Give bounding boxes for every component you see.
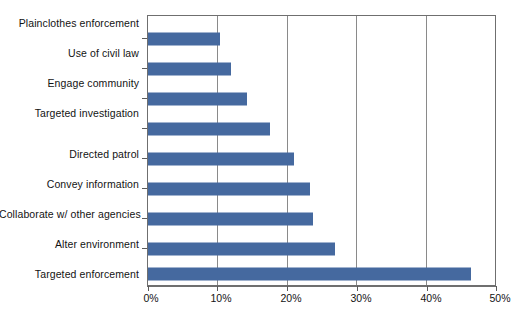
bar-alter-environment bbox=[148, 243, 335, 256]
x-axis-tick bbox=[357, 286, 358, 291]
bar-targeted-enforcement bbox=[148, 268, 471, 281]
category-label: Use of civil law bbox=[0, 48, 139, 59]
category-label: Alter environment bbox=[0, 239, 139, 250]
bar-convey-information bbox=[148, 183, 310, 196]
bar-chart: Plainclothes enforcement Use of civil la… bbox=[0, 0, 519, 315]
category-label: Convey information bbox=[0, 179, 139, 190]
x-axis-tick bbox=[427, 286, 428, 291]
x-axis-tick-label: 20% bbox=[280, 293, 301, 304]
category-label: Collaborate w/ other agencies bbox=[0, 209, 139, 220]
x-axis-tick-label: 40% bbox=[420, 293, 441, 304]
category-label: Plainclothes enforcement bbox=[0, 18, 139, 29]
x-axis-tick-label: 50% bbox=[489, 293, 510, 304]
category-label: Targeted investigation bbox=[0, 108, 139, 119]
category-label: Engage community bbox=[0, 78, 139, 89]
bar-use-of-civil-law bbox=[148, 63, 231, 76]
gridline-30 bbox=[356, 16, 357, 285]
x-axis-tick bbox=[148, 286, 149, 291]
category-label: Targeted enforcement bbox=[0, 269, 139, 280]
bar-plainclothes-enforcement bbox=[148, 33, 220, 46]
x-axis-tick-label: 30% bbox=[350, 293, 371, 304]
x-axis-tick-label: 0% bbox=[143, 293, 158, 304]
x-axis-tick bbox=[287, 286, 288, 291]
gridline-40 bbox=[426, 16, 427, 285]
bar-targeted-investigation bbox=[148, 123, 270, 136]
bar-engage-community bbox=[148, 93, 247, 106]
x-axis-line bbox=[147, 286, 497, 287]
bar-collaborate-other-agencies bbox=[148, 213, 313, 226]
x-axis-tick bbox=[496, 286, 497, 291]
x-axis-tick bbox=[217, 286, 218, 291]
category-label: Directed patrol bbox=[0, 149, 139, 160]
plot-area bbox=[147, 15, 496, 286]
category-axis: Plainclothes enforcement Use of civil la… bbox=[0, 15, 145, 286]
x-axis-tick-label: 10% bbox=[210, 293, 231, 304]
bar-directed-patrol bbox=[148, 153, 294, 166]
